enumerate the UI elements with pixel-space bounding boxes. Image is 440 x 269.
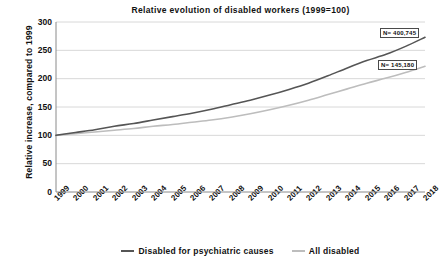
series-end-annotation-psychiatric: N= 400,745: [380, 28, 419, 38]
series-lines: [56, 37, 425, 135]
series-line: [56, 66, 425, 135]
legend-item: Disabled for psychiatric causes: [121, 246, 273, 256]
gridlines: [56, 22, 425, 192]
legend-item: All disabled: [292, 246, 360, 256]
legend-swatch-icon: [292, 250, 305, 252]
chart-legend: Disabled for psychiatric causesAll disab…: [56, 246, 425, 256]
legend-label: Disabled for psychiatric causes: [138, 246, 273, 256]
series-line: [56, 37, 425, 135]
legend-label: All disabled: [309, 246, 360, 256]
legend-swatch-icon: [121, 250, 134, 252]
series-end-annotation-all: N= 145,180: [378, 60, 417, 70]
